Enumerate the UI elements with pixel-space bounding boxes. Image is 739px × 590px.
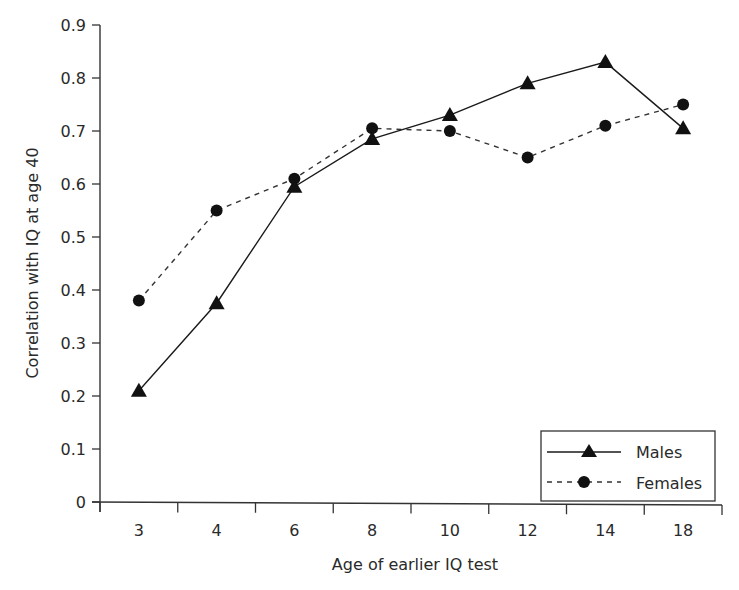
y-tick-label: 0.5 — [61, 228, 86, 247]
circle-marker — [599, 120, 611, 132]
y-tick-label: 0.6 — [61, 175, 86, 194]
x-tick-label: 6 — [289, 521, 299, 540]
x-tick-label: 8 — [367, 521, 377, 540]
x-tick-label: 14 — [595, 521, 615, 540]
triangle-marker — [442, 107, 458, 121]
triangle-marker — [209, 295, 225, 309]
line-chart: 00.10.20.30.40.50.60.70.80.9 34681012141… — [0, 0, 739, 590]
x-axis: 346810121418 — [92, 502, 722, 540]
series-females — [133, 99, 689, 307]
y-tick-label: 0.7 — [61, 122, 86, 141]
x-tick-label: 10 — [440, 521, 460, 540]
y-tick-label: 0.8 — [61, 69, 86, 88]
circle-marker — [677, 99, 689, 111]
y-tick-label: 0.2 — [61, 387, 86, 406]
x-tick-label: 4 — [212, 521, 222, 540]
x-tick-label: 12 — [517, 521, 537, 540]
x-tick-label: 18 — [673, 521, 693, 540]
triangle-marker — [597, 54, 613, 68]
series-males — [131, 54, 691, 397]
legend-label-females: Females — [636, 474, 702, 493]
y-axis-title: Correlation with IQ at age 40 — [23, 147, 42, 378]
y-tick-label: 0.1 — [61, 440, 86, 459]
circle-marker — [444, 125, 456, 137]
circle-marker-icon — [578, 476, 590, 488]
legend-label-males: Males — [636, 443, 682, 462]
y-tick-label: 0.4 — [61, 281, 86, 300]
legend: Males Females — [541, 431, 715, 501]
circle-marker — [211, 205, 223, 217]
y-tick-label: 0.9 — [61, 16, 86, 35]
x-tick-label: 3 — [134, 521, 144, 540]
y-axis: 00.10.20.30.40.50.60.70.80.9 — [61, 16, 100, 512]
triangle-marker — [675, 120, 691, 134]
y-tick-label: 0 — [76, 493, 86, 512]
circle-marker — [522, 152, 534, 164]
circle-marker — [133, 295, 145, 307]
x-axis-title: Age of earlier IQ test — [332, 555, 498, 574]
series-layer — [131, 54, 691, 397]
y-tick-label: 0.3 — [61, 334, 86, 353]
